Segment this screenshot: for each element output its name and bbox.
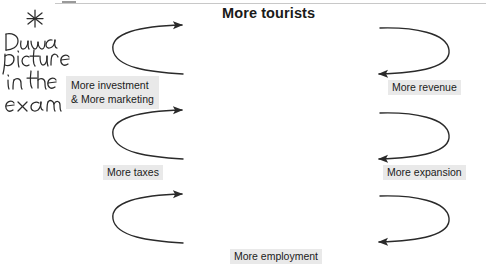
node-more-employment: More employment — [230, 249, 322, 264]
handwriting-strokes — [2, 8, 74, 113]
arrow-left-middle — [113, 110, 183, 159]
arrow-left-bottom — [113, 194, 183, 243]
arrow-right-top — [379, 28, 449, 74]
node-more-taxes: More taxes — [103, 165, 163, 180]
node-more-investment-marketing: More investment & More marketing — [66, 76, 159, 109]
node-more-investment-line1: More investment — [71, 78, 154, 92]
arrow-right-bottom — [379, 196, 449, 242]
handwritten-annotation — [2, 8, 74, 113]
diagram-page: More tourists More revenue More expansio… — [0, 0, 486, 274]
node-more-revenue: More revenue — [388, 80, 461, 95]
arrow-right-middle — [379, 113, 449, 159]
arrow-left-top — [113, 25, 183, 74]
node-more-expansion: More expansion — [383, 165, 466, 180]
node-more-marketing-line2: & More marketing — [71, 92, 154, 106]
node-more-tourists: More tourists — [222, 5, 315, 21]
asterisk-icon — [27, 10, 43, 27]
